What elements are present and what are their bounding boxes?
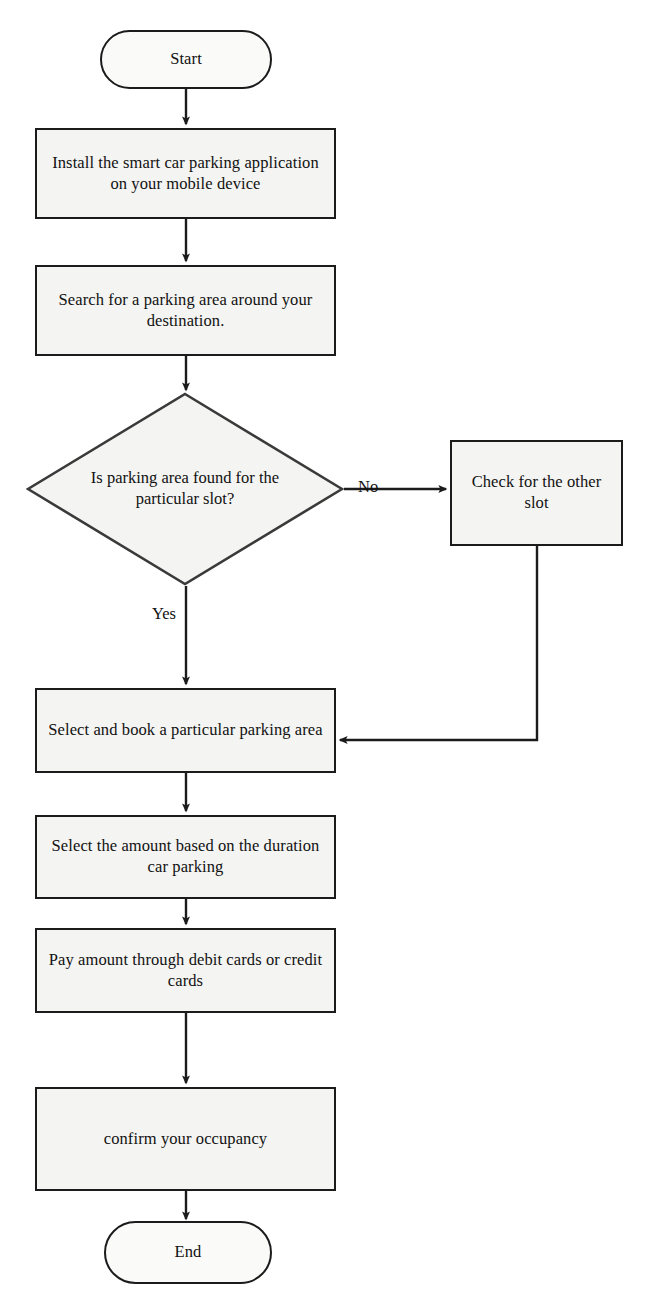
node-select-amount-label: Select the amount based on the duration … <box>46 836 325 878</box>
node-end[interactable]: End <box>104 1221 272 1284</box>
edge-label-no: No <box>358 477 378 497</box>
node-install-application[interactable]: Install the smart car parking applicatio… <box>35 128 336 219</box>
node-check-other-slot-label: Check for the other slot <box>461 472 612 514</box>
node-start-label: Start <box>170 49 202 70</box>
node-pay-amount[interactable]: Pay amount through debit cards or credit… <box>35 928 336 1013</box>
node-pay-amount-label: Pay amount through debit cards or credit… <box>46 950 325 992</box>
flowchart-canvas: Start Install the smart car parking appl… <box>0 0 646 1311</box>
edge-check-selectbook <box>340 546 537 740</box>
node-search-parking-area-label: Search for a parking area around your de… <box>46 290 325 332</box>
node-select-and-book-label: Select and book a particular parking are… <box>48 720 322 741</box>
edge-label-yes: Yes <box>152 604 176 624</box>
node-search-parking-area[interactable]: Search for a parking area around your de… <box>35 265 336 356</box>
node-select-amount[interactable]: Select the amount based on the duration … <box>35 815 336 899</box>
node-check-other-slot[interactable]: Check for the other slot <box>450 440 623 546</box>
node-end-label: End <box>175 1242 202 1263</box>
node-confirm-occupancy[interactable]: confirm your occupancy <box>35 1087 336 1191</box>
node-decision-parking-found-label: Is parking area found for the particular… <box>26 392 344 586</box>
node-select-and-book[interactable]: Select and book a particular parking are… <box>35 688 336 773</box>
node-start[interactable]: Start <box>100 30 272 89</box>
node-install-application-label: Install the smart car parking applicatio… <box>46 153 325 195</box>
node-confirm-occupancy-label: confirm your occupancy <box>104 1129 267 1150</box>
node-decision-parking-found[interactable]: Is parking area found for the particular… <box>26 392 344 586</box>
